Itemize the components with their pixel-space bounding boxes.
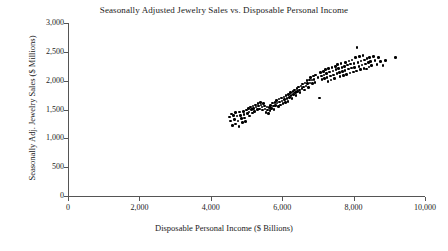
scatter-point (327, 80, 330, 83)
scatter-point (269, 104, 272, 107)
scatter-point (228, 116, 231, 119)
scatter-point (296, 90, 299, 93)
scatter-point (246, 112, 249, 115)
scatter-point (259, 101, 262, 104)
scatter-point (363, 67, 366, 70)
scatter-point (364, 63, 367, 66)
scatter-point (236, 115, 239, 118)
scatter-point (265, 111, 268, 114)
chart-title: Seasonally Adjusted Jewelry Sales vs. Di… (0, 5, 448, 15)
scatter-point (241, 121, 244, 124)
scatter-point (280, 97, 283, 100)
scatter-point (309, 76, 312, 79)
scatter-point (357, 61, 360, 64)
scatter-point (372, 55, 375, 58)
scatter-point (252, 105, 255, 108)
scatter-point (342, 74, 345, 77)
scatter-point (279, 104, 282, 107)
scatter-point (277, 105, 280, 108)
y-tick-label-wrap: 1,000 (18, 134, 64, 142)
x-tick-mark (354, 197, 355, 201)
x-tick-label: 8,000 (326, 203, 382, 212)
scatter-point (270, 107, 273, 110)
scatter-point (326, 76, 329, 79)
scatter-point (255, 106, 258, 109)
scatter-point (232, 114, 235, 117)
scatter-point (304, 82, 307, 85)
scatter-point (332, 70, 335, 73)
scatter-point (344, 61, 347, 64)
scatter-point (314, 74, 317, 77)
scatter-point (299, 91, 302, 94)
scatter-point (311, 82, 314, 85)
scatter-point (308, 79, 311, 82)
scatter-point (293, 89, 296, 92)
scatter-point (260, 104, 263, 107)
scatter-point (306, 79, 309, 82)
scatter-point (263, 105, 266, 108)
scatter-point (252, 107, 255, 110)
scatter-point (336, 72, 339, 75)
scatter-point (349, 63, 352, 66)
scatter-point (230, 113, 233, 116)
scatter-point (324, 68, 327, 71)
scatter-point (292, 93, 295, 96)
scatter-point (301, 87, 304, 90)
scatter-point (382, 64, 385, 67)
x-tick-label: 4,000 (183, 203, 239, 212)
scatter-point (262, 102, 265, 105)
scatter-point (261, 109, 264, 112)
scatter-point (353, 62, 356, 65)
scatter-point (346, 64, 349, 67)
y-tick-label-wrap: 3,000 (18, 19, 64, 27)
scatter-point (266, 106, 269, 109)
scatter-point (327, 67, 330, 70)
y-tick-mark (64, 23, 68, 24)
scatter-point (319, 71, 322, 74)
scatter-point (320, 75, 323, 78)
scatter-point (238, 125, 241, 128)
scatter-point (257, 102, 260, 105)
scatter-point (274, 104, 277, 107)
scatter-point (303, 89, 306, 92)
scatter-point (240, 117, 243, 120)
scatter-point (234, 123, 237, 126)
y-tick-mark (64, 81, 68, 82)
scatter-point (234, 111, 237, 114)
scatter-point (328, 71, 331, 74)
x-tick-label: 10,000 (397, 203, 448, 212)
y-tick-mark (64, 167, 68, 168)
x-tick-mark (425, 197, 426, 201)
scatter-point (243, 113, 246, 116)
scatter-point (321, 78, 324, 81)
scatter-point (287, 100, 290, 103)
scatter-point (360, 60, 363, 63)
scatter-point (353, 66, 356, 69)
scatter-point (376, 63, 379, 66)
scatter-point (358, 55, 361, 58)
scatter-point (317, 76, 320, 79)
scatter-point (334, 65, 337, 68)
scatter-point (256, 108, 259, 111)
scatter-point (352, 71, 355, 74)
scatter-point (379, 60, 382, 63)
scatter-point (268, 106, 271, 109)
scatter-point (340, 62, 343, 65)
scatter-point (278, 101, 281, 104)
y-axis-title: Seasonally Adj. Jewelry Sales ($ Million… (27, 13, 37, 203)
scatter-point (282, 102, 285, 105)
scatter-point (343, 65, 346, 68)
scatter-point (257, 105, 260, 108)
scatter-point (325, 72, 328, 75)
scatter-point (267, 112, 270, 115)
scatter-point (242, 110, 245, 113)
scatter-point (281, 100, 284, 103)
scatter-point (294, 91, 297, 94)
scatter-point (331, 66, 334, 69)
x-tick-label: 2,000 (111, 203, 167, 212)
scatter-point (301, 83, 304, 86)
scatter-point (296, 87, 299, 90)
scatter-point (266, 109, 269, 112)
scatter-point (368, 66, 371, 69)
scatter-point (298, 89, 301, 92)
